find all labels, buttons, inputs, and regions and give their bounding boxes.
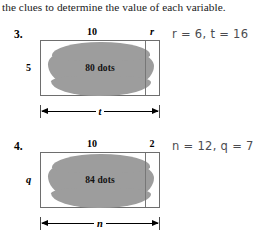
dot-count-label: 84 dots	[41, 153, 159, 207]
dimension-label: t	[40, 104, 160, 119]
dimension-label: n	[40, 216, 160, 231]
top-segment-left-label: 10	[40, 138, 144, 149]
top-segment-left-label: 10	[40, 26, 144, 37]
dot-count-label: 80 dots	[41, 41, 159, 95]
instruction-text: the clues to determine the value of each…	[2, 0, 252, 14]
dimension-label-text: t	[96, 106, 105, 117]
top-segment-right-label: 2	[144, 138, 160, 149]
problem-number: 4.	[14, 140, 23, 152]
area-rectangle: 80 dots	[40, 40, 160, 96]
area-rectangle: 84 dots	[40, 152, 160, 208]
handwritten-answer: n = 12, q = 7	[172, 139, 254, 153]
problem-number: 3.	[14, 28, 23, 40]
side-height-label: q	[26, 174, 31, 185]
problem-4: 4. 10 2 q 84 dots n n = 12, q = 7	[0, 138, 254, 238]
dimension-label-text: n	[94, 218, 106, 229]
handwritten-answer: r = 6, t = 16	[172, 27, 248, 41]
problem-3: 3. 10 r 5 80 dots t r = 6, t = 16	[0, 26, 254, 126]
bottom-dimension-arrow: n	[40, 216, 160, 232]
top-segment-right-label: r	[144, 26, 160, 37]
bottom-dimension-arrow: t	[40, 104, 160, 120]
side-height-label: 5	[26, 62, 31, 73]
